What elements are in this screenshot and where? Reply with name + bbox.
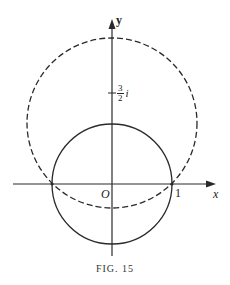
figure: y x O 1 3 2 i FIG. 15	[0, 0, 230, 285]
y-axis-arrow-icon	[109, 19, 116, 29]
x-axis-label: x	[213, 188, 218, 200]
y-axis-label: y	[116, 14, 122, 26]
x-tick-label: 1	[175, 187, 181, 199]
intersection-point-left	[51, 183, 54, 186]
figure-caption: FIG. 15	[0, 263, 230, 274]
origin-label: O	[101, 188, 110, 200]
y-tick-label: 3 2 i	[117, 84, 129, 103]
fraction: 3 2	[117, 84, 124, 103]
intersection-point-right	[171, 183, 174, 186]
diagram-canvas	[0, 0, 230, 285]
fraction-denominator: 2	[118, 94, 123, 103]
imaginary-unit: i	[126, 88, 129, 99]
